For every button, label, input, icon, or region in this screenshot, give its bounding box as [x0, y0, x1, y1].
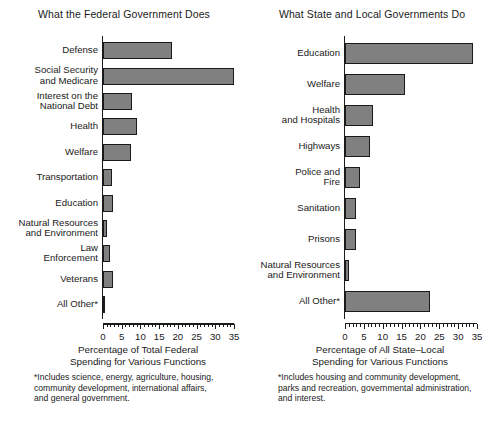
bar-category-label: Prisons [251, 234, 340, 245]
x-axis-major-tick [122, 324, 123, 329]
x-axis-minor-tick [193, 324, 194, 327]
bar [103, 93, 132, 110]
bar [345, 260, 349, 281]
state-local-spending-panel: What State and Local Governments Do Educ… [248, 0, 496, 425]
x-axis-minor-tick [148, 324, 149, 327]
bar [345, 229, 356, 250]
x-axis-minor-tick [353, 324, 354, 327]
x-axis-major-tick [159, 324, 160, 329]
x-axis-minor-tick [155, 324, 156, 327]
x-axis-major-tick [420, 324, 421, 329]
x-axis-tick-label: 0 [100, 331, 105, 342]
bar-rows: DefenseSocial Security and MedicareInter… [0, 36, 248, 322]
x-axis-minor-tick [174, 324, 175, 327]
bar [103, 195, 113, 212]
x-axis-minor-tick [473, 324, 474, 327]
x-axis-minor-tick [424, 324, 425, 327]
x-axis-minor-tick [107, 324, 108, 327]
panel-title-state-local: What State and Local Governments Do [248, 8, 496, 20]
x-axis-minor-tick [118, 324, 119, 327]
x-axis-minor-tick [133, 324, 134, 327]
y-axis-line [102, 36, 103, 319]
x-axis-major-tick [234, 324, 235, 329]
x-axis-minor-tick [375, 324, 376, 327]
bar-category-label: Health [3, 121, 98, 132]
x-axis-major-tick [477, 324, 478, 329]
state-local-plot-area: EducationWelfareHealth and HospitalsHigh… [248, 36, 496, 324]
x-axis-minor-tick [417, 324, 418, 327]
bar [345, 198, 356, 219]
x-axis-tick-label: 35 [229, 331, 240, 342]
x-axis-minor-tick [144, 324, 145, 327]
x-axis-minor-tick [110, 324, 111, 327]
x-axis-minor-tick [413, 324, 414, 327]
x-axis-tick-label: 5 [119, 331, 124, 342]
x-axis-tick-label: 20 [415, 331, 426, 342]
x-axis-major-tick [383, 324, 384, 329]
x-axis-tick-label: 15 [396, 331, 407, 342]
footnote-state-local: *Includes housing and community developm… [278, 372, 493, 404]
x-axis-minor-tick [469, 324, 470, 327]
x-axis-minor-tick [182, 324, 183, 327]
bar-category-label: Police and Fire [251, 167, 340, 188]
x-axis-major-tick [103, 324, 104, 329]
x-axis-minor-tick [386, 324, 387, 327]
bar [103, 42, 172, 59]
x-axis-minor-tick [432, 324, 433, 327]
bar-category-label: All Other* [3, 299, 98, 310]
bar-category-label: Natural Resources and Environment [251, 260, 340, 281]
bar-category-label: Welfare [251, 79, 340, 90]
bar-category-label: Health and Hospitals [251, 105, 340, 126]
x-axis-minor-tick [230, 324, 231, 327]
x-axis-tick-label: 25 [434, 331, 445, 342]
bar [103, 68, 234, 85]
x-axis-major-tick [140, 324, 141, 329]
x-axis-tick-label: 20 [173, 331, 184, 342]
x-axis-tick-label: 25 [191, 331, 202, 342]
bar [103, 271, 113, 288]
x-axis-major-tick [458, 324, 459, 329]
x-axis-minor-tick [227, 324, 228, 327]
bar [345, 136, 370, 157]
bar [103, 118, 137, 135]
x-axis-minor-tick [451, 324, 452, 327]
x-axis-minor-tick [223, 324, 224, 327]
x-axis-major-tick [215, 324, 216, 329]
x-axis-tick-label: 10 [135, 331, 146, 342]
x-axis-minor-tick [466, 324, 467, 327]
x-axis-major-tick [345, 324, 346, 329]
x-axis-major-tick [439, 324, 440, 329]
bar-category-label: Defense [3, 45, 98, 56]
x-axis-major-tick [364, 324, 365, 329]
bar-category-label: Social Security and Medicare [3, 65, 98, 86]
x-axis-title: Percentage of All State–Local Spending f… [256, 344, 496, 367]
x-axis-minor-tick [398, 324, 399, 327]
bar [103, 169, 112, 186]
bar-rows: EducationWelfareHealth and HospitalsHigh… [248, 36, 496, 322]
bar-category-label: Education [251, 48, 340, 59]
bar-category-label: Highways [251, 141, 340, 152]
x-axis-minor-tick [185, 324, 186, 327]
bar [345, 167, 360, 188]
x-axis-tick-label: 35 [472, 331, 483, 342]
x-axis-minor-tick [405, 324, 406, 327]
x-axis-minor-tick [125, 324, 126, 327]
x-axis-tick-label: 15 [154, 331, 165, 342]
federal-spending-panel: What the Federal Government Does Defense… [0, 0, 248, 425]
x-axis-minor-tick [137, 324, 138, 327]
x-axis-minor-tick [360, 324, 361, 327]
bar-category-label: Interest on the National Debt [3, 91, 98, 112]
x-axis-minor-tick [379, 324, 380, 327]
two-panel-bar-chart-figure: What the Federal Government Does Defense… [0, 0, 496, 425]
x-axis-minor-tick [349, 324, 350, 327]
bar [103, 144, 131, 161]
x-axis-minor-tick [152, 324, 153, 327]
federal-plot-area: DefenseSocial Security and MedicareInter… [0, 36, 248, 324]
x-axis-tick-label: 5 [361, 331, 366, 342]
bar-category-label: Law Enforcement [3, 243, 98, 264]
x-axis-minor-tick [129, 324, 130, 327]
x-axis-minor-tick [200, 324, 201, 327]
bar-category-label: Transportation [3, 172, 98, 183]
bar [345, 105, 373, 126]
bar [345, 291, 430, 312]
